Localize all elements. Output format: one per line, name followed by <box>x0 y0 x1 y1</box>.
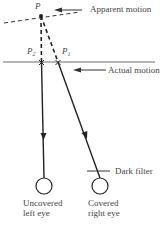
actual-motion-label: Actual motion <box>108 65 160 75</box>
actual-arrow-head <box>73 68 81 73</box>
p2-subscript: 2 <box>33 51 36 57</box>
dark-filter-label: Dark filter <box>115 166 153 176</box>
left-eye-label-line2: left eye <box>23 208 62 218</box>
left-eye-label: Uncovered left eye <box>23 198 62 218</box>
right-eye-label: Covered right eye <box>88 198 120 218</box>
p2-label: P2 <box>27 46 36 59</box>
apparent-motion-label: Apparent motion <box>90 4 151 14</box>
left-dashed-line <box>41 16 42 62</box>
left-sight-line <box>42 62 45 178</box>
left-eye <box>36 178 52 194</box>
apparent-arrow-head <box>54 8 62 13</box>
p1-subscript: 1 <box>68 51 71 57</box>
point-p-label: P <box>35 1 41 11</box>
right-eye-label-line1: Covered <box>88 198 120 208</box>
right-dashed-line <box>41 16 58 62</box>
left-eye-label-line1: Uncovered <box>23 198 62 208</box>
pulfrich-diagram <box>0 0 164 226</box>
left-sight-arrow-head <box>41 133 47 140</box>
p1-label: P1 <box>62 46 71 59</box>
right-eye-label-line2: right eye <box>88 208 120 218</box>
right-eye <box>92 178 108 194</box>
right-sight-arrow-head <box>82 131 88 139</box>
right-sight-line <box>58 62 100 178</box>
p1-marker <box>56 60 61 65</box>
